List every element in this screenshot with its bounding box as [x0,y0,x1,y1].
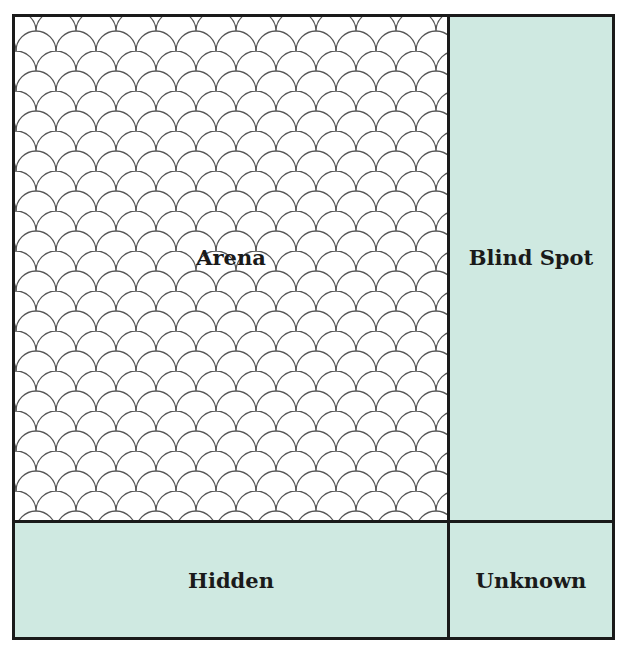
quadrant-label-unknown: Unknown [476,568,587,593]
quadrant-blind-spot: Blind Spot [447,17,612,520]
quadrant-label-blind-spot: Blind Spot [469,245,594,270]
quadrant-hidden: Hidden [15,520,447,637]
johari-window-diagram: Arena Blind Spot Hidden Unknown [12,14,615,640]
quadrant-unknown: Unknown [447,520,612,637]
quadrant-label-arena: Arena [196,245,266,270]
quadrant-arena: Arena [15,17,447,520]
quadrant-label-hidden: Hidden [188,568,274,593]
